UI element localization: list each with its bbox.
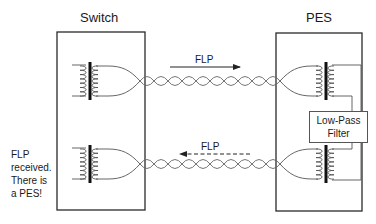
bottom-flp-label: FLP bbox=[201, 141, 219, 152]
switch-label: Switch bbox=[80, 10, 118, 25]
upper-twisted-pair bbox=[140, 77, 280, 86]
note-line-2: received. bbox=[11, 161, 52, 174]
switch-lower-core bbox=[89, 145, 92, 183]
filter-label-line1: Low-Pass bbox=[310, 114, 367, 127]
top-flp-label: FLP bbox=[195, 54, 213, 65]
note-line-4: a PES! bbox=[11, 187, 52, 200]
note-line-1: FLP bbox=[11, 148, 52, 161]
flp-received-note: FLP received. There is a PES! bbox=[11, 148, 52, 200]
low-pass-filter-box: Low-Pass Filter bbox=[309, 111, 368, 143]
lower-twisted-pair bbox=[140, 160, 280, 169]
pes-lower-core bbox=[325, 145, 328, 183]
switch-lower-transformer bbox=[72, 148, 140, 179]
note-line-3: There is bbox=[11, 174, 52, 187]
switch-box bbox=[57, 32, 145, 210]
switch-upper-transformer bbox=[72, 65, 140, 96]
pes-lower-transformer bbox=[280, 142, 361, 180]
filter-label-line2: Filter bbox=[310, 127, 367, 140]
pes-upper-transformer bbox=[280, 65, 361, 111]
pes-upper-core bbox=[325, 62, 328, 100]
pes-label: PES bbox=[306, 10, 332, 25]
switch-upper-core bbox=[89, 62, 92, 100]
